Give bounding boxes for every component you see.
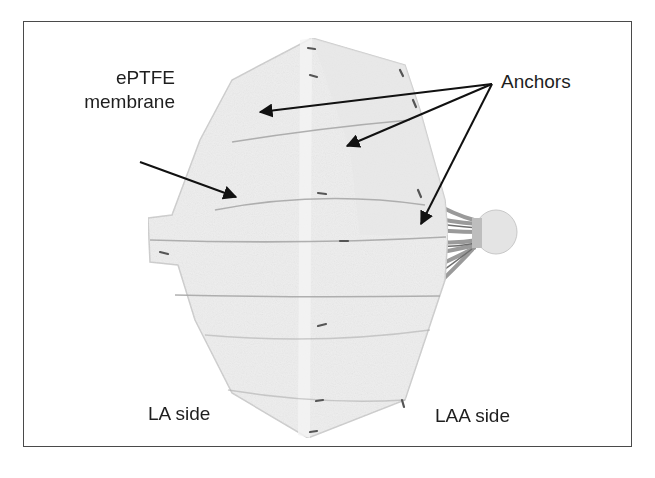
laa-side-label: LAA side	[435, 404, 510, 428]
membrane-label-line1: ePTFE	[60, 66, 175, 90]
la-side-label: LA side	[148, 402, 210, 426]
membrane-label-line2: membrane	[60, 90, 175, 114]
membrane-label: ePTFE membrane	[60, 66, 175, 114]
anchors-label: Anchors	[501, 70, 571, 94]
